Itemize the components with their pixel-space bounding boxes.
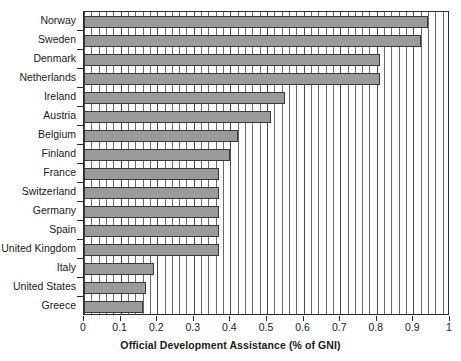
- y-axis-tick-label: Greece: [42, 300, 76, 311]
- y-axis-tick: [77, 201, 83, 202]
- y-axis-tick-label: Denmark: [33, 53, 76, 64]
- y-axis-tick: [77, 239, 83, 240]
- y-axis-tick-label: Italy: [57, 262, 76, 273]
- y-axis-tick-label: Finland: [42, 148, 76, 159]
- y-axis-tick: [77, 106, 83, 107]
- bar: [84, 130, 238, 142]
- x-axis-tick-label: 0.6: [295, 322, 310, 333]
- y-axis-tick-label: United Kingdom: [1, 243, 76, 254]
- y-axis-tick-label: Belgium: [38, 129, 76, 140]
- bar: [84, 187, 219, 199]
- bar: [84, 92, 285, 104]
- x-axis-tick-label: 0: [80, 322, 86, 333]
- x-axis-tick-label: 0.9: [405, 322, 420, 333]
- bar: [84, 263, 154, 275]
- bar: [84, 35, 421, 47]
- bar: [84, 282, 146, 294]
- bar: [84, 301, 143, 313]
- bar: [84, 111, 271, 123]
- y-axis-tick: [77, 296, 83, 297]
- y-axis-tick-label: Switzerland: [22, 186, 76, 197]
- gridline-minor: [406, 12, 407, 314]
- bar: [84, 244, 219, 256]
- y-axis-tick-label: Sweden: [38, 34, 76, 45]
- x-axis-tick-label: 0.7: [332, 322, 347, 333]
- y-axis-tick-label: Netherlands: [19, 72, 76, 83]
- y-axis-tick-label: Austria: [43, 110, 76, 121]
- y-axis-tick: [77, 87, 83, 88]
- y-axis-tick-label: United States: [13, 281, 76, 292]
- x-axis-tick-label: 0.3: [185, 322, 200, 333]
- y-axis-tick-label: France: [43, 167, 76, 178]
- y-axis-tick: [77, 30, 83, 31]
- y-axis-tick-label: Norway: [40, 15, 76, 26]
- bar: [84, 225, 219, 237]
- x-axis-title: Official Development Assistance (% of GN…: [0, 339, 461, 351]
- x-axis-tick-label: 0.2: [149, 322, 164, 333]
- y-axis-tick-label: Spain: [49, 224, 76, 235]
- x-axis-tick-label: 1: [446, 322, 452, 333]
- bar: [84, 168, 219, 180]
- x-axis-tick-label: 0.8: [368, 322, 383, 333]
- y-axis-tick-label: Ireland: [44, 91, 76, 102]
- y-axis-tick: [77, 144, 83, 145]
- y-axis-tick: [77, 220, 83, 221]
- y-axis-tick: [77, 125, 83, 126]
- gridline-minor: [443, 12, 444, 314]
- bar: [84, 73, 380, 85]
- bar: [84, 206, 219, 218]
- gridline-minor: [384, 12, 385, 314]
- y-axis-tick: [77, 68, 83, 69]
- gridline-major: [413, 12, 414, 314]
- bar: [84, 149, 230, 161]
- y-axis-tick: [77, 258, 83, 259]
- gridline-minor: [428, 12, 429, 314]
- gridline-minor: [399, 12, 400, 314]
- x-axis-tick-label: 0.1: [112, 322, 127, 333]
- y-axis-tick-label: Germany: [33, 205, 76, 216]
- y-axis-tick: [77, 49, 83, 50]
- x-axis-tick-label: 0.5: [259, 322, 274, 333]
- y-axis-tick: [77, 277, 83, 278]
- x-axis-tick-label: 0.4: [222, 322, 237, 333]
- gridline-minor: [435, 12, 436, 314]
- bar: [84, 54, 380, 66]
- plot-area: [83, 11, 449, 315]
- gridline-minor: [421, 12, 422, 314]
- y-axis-tick: [77, 163, 83, 164]
- gridline-minor: [391, 12, 392, 314]
- bar: [84, 16, 428, 28]
- y-axis-tick: [77, 182, 83, 183]
- chart-container: NorwaySwedenDenmarkNetherlandsIrelandAus…: [0, 0, 461, 361]
